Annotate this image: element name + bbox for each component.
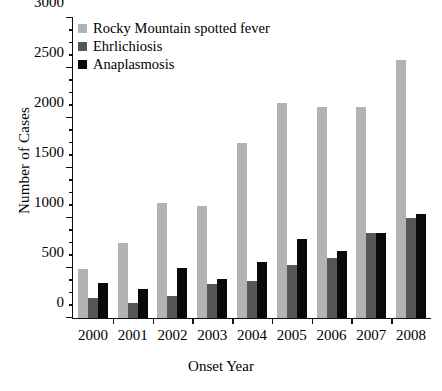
legend-label: Anaplasmosis — [93, 57, 174, 72]
bar — [118, 243, 128, 318]
legend-item: Anaplasmosis — [78, 56, 270, 73]
bar — [138, 289, 148, 319]
y-axis-tick-label: 0 — [57, 295, 65, 310]
x-axis-tick-label: 2001 — [118, 327, 148, 344]
bar — [416, 214, 426, 319]
y-axis-major-tick — [66, 217, 73, 218]
bar — [207, 284, 217, 318]
legend-color-swatch — [78, 42, 87, 51]
bar — [257, 262, 267, 318]
x-axis-tick-label: 2007 — [356, 327, 386, 344]
bar-chart-figure: Number of Cases 050010001500200025003000… — [0, 0, 442, 391]
y-axis-major-tick — [66, 67, 73, 68]
bar — [327, 258, 337, 318]
bar — [177, 268, 187, 319]
y-axis-major-tick — [66, 167, 73, 168]
bar-group — [351, 18, 391, 318]
bar-group — [312, 18, 352, 318]
bar — [157, 203, 167, 318]
y-axis-title: Number of Cases — [16, 71, 33, 251]
x-axis-tick-label: 2000 — [78, 327, 108, 344]
x-axis-tick-label: 2003 — [197, 327, 227, 344]
bar-group — [391, 18, 431, 318]
bar — [337, 251, 347, 318]
legend-color-swatch — [78, 24, 87, 33]
x-axis-tick — [232, 318, 233, 324]
y-axis-major-tick — [66, 117, 73, 118]
x-axis-tick — [153, 318, 154, 324]
x-axis-tick-label: 2008 — [396, 327, 426, 344]
bar — [277, 103, 287, 319]
x-axis-tick — [272, 318, 273, 324]
bar — [317, 107, 327, 319]
bar — [237, 143, 247, 319]
bar — [128, 303, 138, 319]
chart-legend: Rocky Mountain spotted feverEhrlichiosis… — [78, 20, 270, 74]
x-axis-tick — [351, 318, 352, 324]
x-axis-tick-label: 2004 — [237, 327, 267, 344]
bar — [217, 279, 227, 318]
legend-item: Ehrlichiosis — [78, 38, 270, 55]
bar — [356, 107, 366, 318]
bar — [366, 233, 376, 319]
bar — [287, 265, 297, 319]
y-axis-tick-label: 1000 — [34, 195, 64, 210]
bar — [88, 298, 98, 318]
y-axis-major-tick — [66, 267, 73, 268]
bar — [297, 239, 307, 319]
legend-label: Ehrlichiosis — [93, 39, 162, 54]
x-axis-tick-label: 2005 — [277, 327, 307, 344]
y-axis-tick-label: 2000 — [34, 95, 64, 110]
figure-caption — [18, 383, 438, 391]
bar — [247, 281, 257, 318]
x-axis-tick-label: 2006 — [317, 327, 347, 344]
legend-color-swatch — [78, 60, 87, 69]
y-axis-tick-label: 2500 — [34, 45, 64, 60]
y-axis-major-tick — [66, 17, 73, 18]
bar — [98, 283, 108, 318]
bar — [167, 296, 177, 319]
x-axis-title: Onset Year — [0, 358, 442, 375]
y-axis-tick-label: 500 — [42, 245, 65, 260]
bar — [396, 60, 406, 318]
x-axis-tick — [113, 318, 114, 324]
bar-group — [272, 18, 312, 318]
y-axis-tick-label: 1500 — [34, 145, 64, 160]
bar — [197, 206, 207, 319]
bar — [376, 233, 386, 319]
x-axis-tick — [192, 318, 193, 324]
bar — [406, 218, 416, 318]
legend-label: Rocky Mountain spotted fever — [93, 21, 270, 36]
x-axis-tick — [312, 318, 313, 324]
x-axis-tick — [391, 318, 392, 324]
y-axis-major-tick — [66, 317, 73, 318]
y-axis-tick-label: 3000 — [34, 0, 64, 10]
bar — [78, 269, 88, 319]
legend-item: Rocky Mountain spotted fever — [78, 20, 270, 37]
x-axis-tick-label: 2002 — [157, 327, 187, 344]
